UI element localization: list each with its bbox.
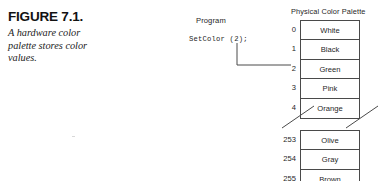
program-heading: Program bbox=[196, 16, 226, 25]
program-code-line: SetColor (2); bbox=[189, 35, 248, 43]
palette-row: Brown bbox=[301, 170, 359, 181]
figure-caption-text: A hardware color palette stores color va… bbox=[8, 27, 100, 65]
palette-table-bottom: Olive Gray Brown bbox=[300, 130, 360, 181]
palette-table-top: White Black Green Pink Orange bbox=[300, 20, 360, 119]
palette-row: Gray bbox=[301, 150, 359, 169]
palette-index: 254 bbox=[272, 149, 296, 168]
palette-index: 3 bbox=[272, 78, 296, 97]
palette-row: Pink bbox=[301, 79, 359, 98]
palette-index: 4 bbox=[272, 98, 296, 117]
palette-title: Physical Color Palette bbox=[291, 7, 366, 16]
palette-index: 253 bbox=[272, 130, 296, 149]
palette-row: Orange bbox=[301, 99, 359, 118]
palette-row: White bbox=[301, 21, 359, 40]
palette-row: Olive bbox=[301, 131, 359, 150]
palette-index: 255 bbox=[272, 169, 296, 181]
scan-artifact bbox=[72, 136, 75, 137]
palette-row: Black bbox=[301, 40, 359, 59]
palette-index: 2 bbox=[272, 59, 296, 78]
palette-index-column-bottom: 253 254 255 bbox=[272, 130, 296, 181]
palette-index: 0 bbox=[272, 20, 296, 39]
palette-index: 1 bbox=[272, 39, 296, 58]
palette-row: Green bbox=[301, 60, 359, 79]
palette-index-column-top: 0 1 2 3 4 bbox=[272, 20, 296, 117]
figure-caption-block: FIGURE 7.1. A hardware color palette sto… bbox=[8, 9, 118, 65]
figure-label: FIGURE 7.1. bbox=[8, 9, 118, 24]
